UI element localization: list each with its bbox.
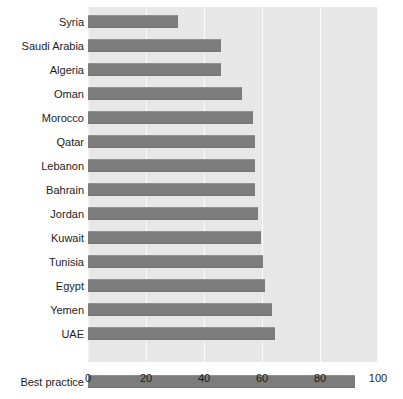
category-label: Kuwait	[2, 226, 84, 250]
x-tick-label-100: 100	[369, 372, 387, 384]
bar	[88, 39, 221, 52]
plot-area	[88, 7, 378, 362]
bar	[88, 279, 265, 292]
x-axis: 020406080100	[0, 362, 403, 399]
category-label-wrap: Oman	[0, 82, 84, 106]
category-label: Syria	[2, 10, 84, 34]
category-label: Morocco	[2, 106, 84, 130]
category-label-wrap: Egypt	[0, 274, 84, 298]
category-label: Egypt	[2, 274, 84, 298]
category-label: Bahrain	[2, 178, 84, 202]
category-label: UAE	[2, 322, 84, 346]
category-label-wrap: Algeria	[0, 58, 84, 82]
bar	[88, 63, 221, 76]
category-label-wrap: Morocco	[0, 106, 84, 130]
category-label-wrap: Kuwait	[0, 226, 84, 250]
x-tick-label-20: 20	[140, 372, 152, 384]
bar	[88, 255, 263, 268]
category-label: Jordan	[2, 202, 84, 226]
category-label: Algeria	[2, 58, 84, 82]
category-label-wrap: Syria	[0, 10, 84, 34]
x-tick-label-0: 0	[85, 372, 91, 384]
bar	[88, 231, 261, 244]
bar-row	[88, 34, 378, 58]
bar	[88, 183, 255, 196]
bar-row	[88, 82, 378, 106]
category-label: Oman	[2, 82, 84, 106]
bar	[88, 327, 275, 340]
x-tick-label-40: 40	[198, 372, 210, 384]
bar-row	[88, 178, 378, 202]
category-label-wrap: Qatar	[0, 130, 84, 154]
category-label-wrap: Bahrain	[0, 178, 84, 202]
bar-row	[88, 322, 378, 346]
bar-row	[88, 298, 378, 322]
category-label: Yemen	[2, 298, 84, 322]
category-label-wrap: Lebanon	[0, 154, 84, 178]
bar-row	[88, 10, 378, 34]
category-label-wrap: Jordan	[0, 202, 84, 226]
bar	[88, 207, 258, 220]
category-label-wrap: Tunisia	[0, 250, 84, 274]
category-label-wrap: Yemen	[0, 298, 84, 322]
category-label-wrap: UAE	[0, 322, 84, 346]
bar	[88, 15, 178, 28]
bar	[88, 135, 255, 148]
bar-row	[88, 130, 378, 154]
bar	[88, 303, 272, 316]
category-label: Saudi Arabia	[2, 34, 84, 58]
category-label: Qatar	[2, 130, 84, 154]
bar	[88, 87, 242, 100]
bar-row	[88, 250, 378, 274]
bar	[88, 111, 253, 124]
bar-row	[88, 274, 378, 298]
category-label: Tunisia	[2, 250, 84, 274]
bar-row	[88, 226, 378, 250]
bar-row	[88, 154, 378, 178]
x-tick-label-60: 60	[256, 372, 268, 384]
category-label-wrap: Saudi Arabia	[0, 34, 84, 58]
x-tick-label-80: 80	[314, 372, 326, 384]
bar	[88, 159, 255, 172]
bar-row	[88, 58, 378, 82]
bar-chart: SyriaSaudi ArabiaAlgeriaOmanMoroccoQatar…	[0, 0, 403, 399]
category-axis-labels: SyriaSaudi ArabiaAlgeriaOmanMoroccoQatar…	[0, 7, 84, 362]
category-label: Lebanon	[2, 154, 84, 178]
bar-row	[88, 106, 378, 130]
bar-row	[88, 202, 378, 226]
